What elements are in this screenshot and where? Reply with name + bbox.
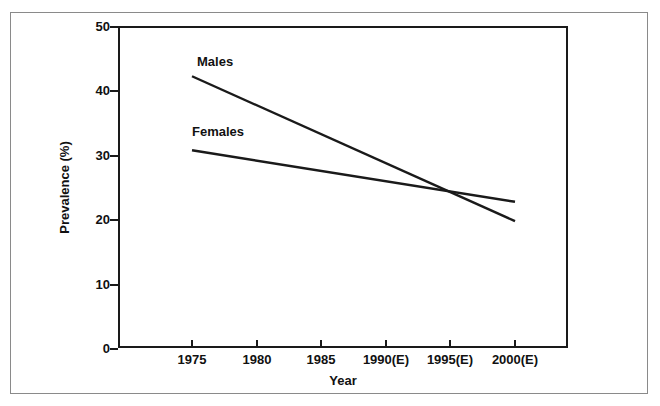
chart-figure: 50 40 30 20 10 0 Males Females: [0, 0, 660, 406]
plot-area: [118, 26, 568, 348]
y-tick-mark-30: [110, 155, 118, 157]
y-axis-tick-labels: 50 40 30 20 10 0: [78, 26, 110, 348]
y-tick-label-30: 30: [80, 149, 110, 162]
y-tick-label-10: 10: [80, 278, 110, 291]
series-label-males: Males: [197, 55, 233, 68]
x-tick-label-1985: 1985: [307, 353, 336, 366]
y-tick-mark-10: [110, 284, 118, 286]
x-tick-label-1995: 1995(E): [427, 353, 473, 366]
y-axis-title: Prevalence (%): [57, 118, 72, 258]
series-label-females: Females: [192, 125, 244, 138]
x-tick-label-1990: 1990(E): [363, 353, 409, 366]
x-axis-title: Year: [118, 373, 568, 388]
x-tick-label-1975: 1975: [178, 353, 207, 366]
x-tick-marks: [192, 340, 515, 348]
y-tick-mark-0: [110, 348, 118, 350]
plot-canvas: [118, 26, 568, 348]
x-axis-tick-labels: 1975 1980 1985 1990(E) 1995(E) 2000(E): [118, 353, 568, 371]
y-tick-label-50: 50: [80, 20, 110, 33]
series-line-females: [192, 150, 515, 202]
y-tick-label-40: 40: [80, 84, 110, 97]
y-tick-label-20: 20: [80, 213, 110, 226]
y-tick-mark-50: [110, 26, 118, 28]
y-tick-mark-20: [110, 219, 118, 221]
x-tick-label-1980: 1980: [243, 353, 272, 366]
y-tick-label-0: 0: [80, 342, 110, 355]
y-tick-mark-40: [110, 90, 118, 92]
x-tick-label-2000: 2000(E): [492, 353, 538, 366]
series-line-males: [192, 76, 515, 221]
